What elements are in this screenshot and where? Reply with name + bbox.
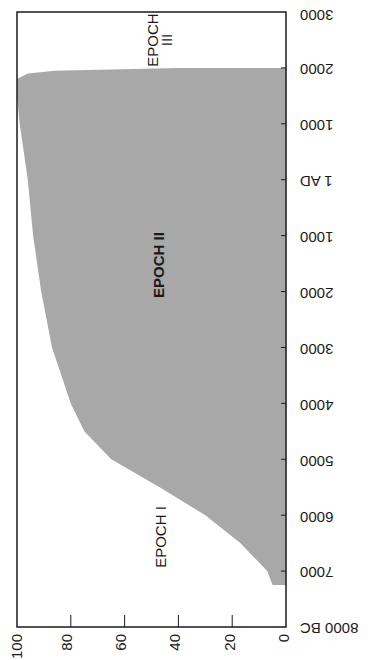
chart: 8000 BC 7000 6000 5000 4000 3000 2000 10… [0, 0, 373, 660]
percent-axis-labels: 100 80 60 40 20 0 [8, 634, 292, 659]
time-tick-label: 1 AD [300, 173, 333, 190]
time-tick-label: 4000 [300, 397, 333, 414]
time-tick-label: 2000 [300, 285, 333, 302]
time-tick-label: 7000 [300, 564, 333, 581]
percent-tick-label: 0 [275, 634, 292, 642]
epoch-1-label: EPOCH I [152, 506, 169, 568]
percent-tick-label: 60 [112, 634, 129, 651]
time-tick-label: 5000 [300, 453, 333, 470]
time-tick-label: 8000 BC [300, 620, 359, 637]
percent-tick-label: 20 [221, 634, 238, 651]
time-tick-label: 1000 [300, 117, 333, 134]
time-tick-label: 1000 [300, 229, 333, 246]
time-tick-label: 6000 [300, 509, 333, 526]
percent-tick-label: 80 [58, 634, 75, 651]
time-tick-label: 2000 [300, 61, 333, 78]
epoch-3-label-line2: III [158, 34, 175, 47]
time-axis-labels: 8000 BC 7000 6000 5000 4000 3000 2000 10… [300, 7, 359, 637]
time-tick-label: 3000 [300, 341, 333, 358]
percent-tick-label: 100 [8, 634, 25, 659]
epoch-2-label: EPOCH II [150, 232, 167, 298]
time-tick-label: 3000 [300, 7, 333, 24]
percent-tick-label: 40 [166, 634, 183, 651]
percent-axis-ticks [71, 615, 232, 627]
